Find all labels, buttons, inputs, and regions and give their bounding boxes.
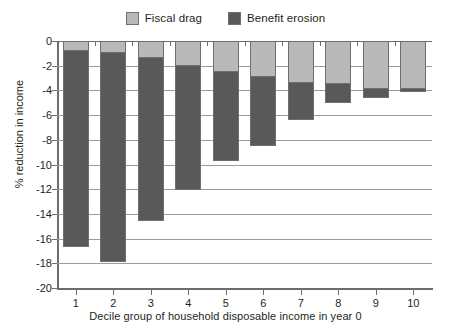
top-axis-tick-mark xyxy=(207,41,208,46)
plot-area xyxy=(57,41,432,288)
top-axis-tick-mark xyxy=(357,41,358,46)
x-axis-tick-label: 4 xyxy=(173,297,203,309)
bar-segment-benefit-erosion xyxy=(63,50,89,247)
legend-label-benefit-erosion: Benefit erosion xyxy=(247,12,325,24)
x-axis-tick-label: 3 xyxy=(136,297,166,309)
top-axis-tick-mark xyxy=(282,41,283,46)
bar-segment-fiscal-drag xyxy=(175,41,201,66)
top-axis-tick-mark xyxy=(395,41,396,46)
legend-label-fiscal-drag: Fiscal drag xyxy=(145,12,202,24)
x-axis-tick-mark xyxy=(226,290,227,295)
bar-stack xyxy=(175,41,201,288)
x-axis-tick-mark xyxy=(151,290,152,295)
bar-segment-benefit-erosion xyxy=(250,76,276,146)
y-axis-tick-label: -20 xyxy=(18,282,52,294)
top-axis-tick-mark xyxy=(170,41,171,46)
x-axis-tick-label: 6 xyxy=(248,297,278,309)
y-axis-tick-label: -14 xyxy=(18,208,52,220)
x-axis-tick-label: 1 xyxy=(61,297,91,309)
bar-segment-fiscal-drag xyxy=(138,41,164,58)
y-axis-tick-label: -18 xyxy=(18,257,52,269)
bar-stack xyxy=(250,41,276,288)
legend-swatch-benefit-erosion xyxy=(228,12,241,25)
x-axis-tick-label: 7 xyxy=(286,297,316,309)
bar-segment-fiscal-drag xyxy=(250,41,276,77)
legend-entry-benefit-erosion: Benefit erosion xyxy=(228,12,325,25)
top-axis-tick-mark xyxy=(320,41,321,46)
x-axis-tick-mark xyxy=(301,290,302,295)
x-axis-tick-mark xyxy=(263,290,264,295)
y-axis-tick-label: -16 xyxy=(18,233,52,245)
bar-segment-benefit-erosion xyxy=(213,71,239,161)
bar-segment-benefit-erosion xyxy=(288,82,314,120)
top-axis-tick-mark xyxy=(132,41,133,46)
x-axis-tick-label: 9 xyxy=(361,297,391,309)
bar-segment-fiscal-drag xyxy=(325,41,351,84)
bar-stack xyxy=(63,41,89,288)
bar-stack xyxy=(325,41,351,288)
x-axis-tick-label: 10 xyxy=(398,297,428,309)
bar-segment-fiscal-drag xyxy=(288,41,314,83)
x-axis-tick-label: 2 xyxy=(98,297,128,309)
x-axis-tick-label: 5 xyxy=(211,297,241,309)
x-axis-tick-mark xyxy=(76,290,77,295)
x-axis-tick-mark xyxy=(376,290,377,295)
legend-entry-fiscal-drag: Fiscal drag xyxy=(126,12,202,25)
bar-segment-benefit-erosion xyxy=(325,83,351,103)
x-axis-tick-mark xyxy=(413,290,414,295)
bar-segment-benefit-erosion xyxy=(100,52,126,262)
bar-stack xyxy=(213,41,239,288)
bar-stack xyxy=(138,41,164,288)
bar-stack xyxy=(363,41,389,288)
x-axis-tick-mark xyxy=(113,290,114,295)
x-axis-tick-mark xyxy=(338,290,339,295)
bar-segment-benefit-erosion xyxy=(138,57,164,221)
bar-segment-benefit-erosion xyxy=(175,65,201,191)
bar-segment-fiscal-drag xyxy=(363,41,389,89)
bar-segment-fiscal-drag xyxy=(213,41,239,72)
bar-stack xyxy=(100,41,126,288)
y-axis-tick-label: 0 xyxy=(18,35,52,47)
bar-segment-fiscal-drag xyxy=(400,41,426,89)
x-axis-title: Decile group of household disposable inc… xyxy=(0,310,451,322)
top-axis-tick-mark xyxy=(245,41,246,46)
bar-stack xyxy=(400,41,426,288)
chart-legend: Fiscal drag Benefit erosion xyxy=(0,8,451,28)
top-axis-tick-mark xyxy=(95,41,96,46)
bar-segment-benefit-erosion xyxy=(363,88,389,98)
y-axis-title: % reduction in income xyxy=(13,59,25,209)
x-axis-tick-mark xyxy=(188,290,189,295)
x-axis-tick-label: 8 xyxy=(323,297,353,309)
bar-stack xyxy=(288,41,314,288)
bar-segment-benefit-erosion xyxy=(400,88,426,91)
legend-swatch-fiscal-drag xyxy=(126,12,139,25)
y-axis-tick-mark xyxy=(52,288,57,289)
